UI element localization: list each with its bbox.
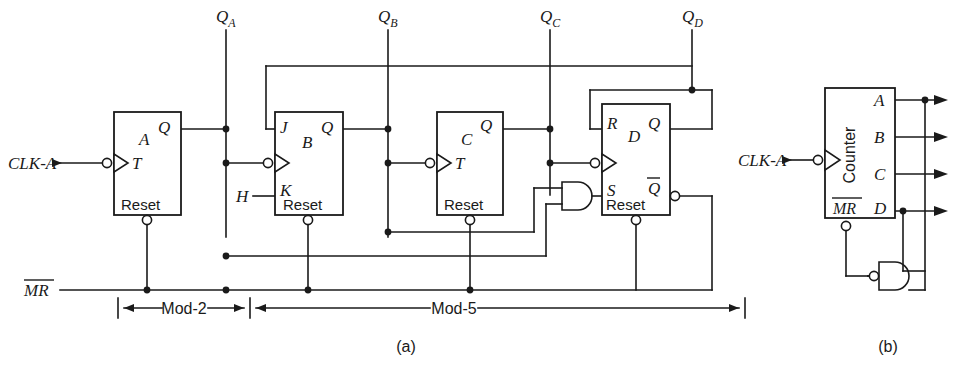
junction-mr-a — [144, 287, 151, 294]
figure-7474-counter-diagram: QA QB QC QD CLK-A CLK-A MR H A Q T Reset… — [0, 0, 964, 379]
label-h: H — [235, 187, 250, 206]
nand-b-out-bubble — [869, 271, 878, 280]
junction-qb-andbus — [385, 229, 392, 236]
ffa-q-label: Q — [158, 118, 170, 137]
ffb-q-label: Q — [321, 118, 333, 137]
ffb-reset-label: Reset — [283, 196, 323, 213]
ffc-q-label: Q — [480, 116, 492, 135]
label-mr: MR — [23, 281, 49, 300]
counter-out-a: A — [873, 91, 885, 110]
counter-out-d: D — [873, 199, 887, 218]
junction-qa-q — [223, 126, 230, 133]
ffd-q-label: Q — [648, 114, 660, 133]
dim-label-mod2: Mod-2 — [161, 300, 206, 317]
junction-qb-q — [385, 126, 392, 133]
junction-qa-mr — [223, 287, 230, 294]
label-clka-left: CLK-A — [8, 154, 57, 173]
counter-out-b: B — [874, 128, 885, 147]
ffd-name: D — [627, 127, 641, 146]
ffa-reset-bubble — [142, 215, 151, 224]
ffd-r-label: R — [606, 114, 618, 133]
ffc-reset-bubble — [465, 215, 474, 224]
ffa-t-label: T — [132, 154, 143, 173]
ffc-clk-bubble — [425, 158, 434, 167]
ffb-reset-bubble — [303, 215, 312, 224]
ffa-reset-label: Reset — [121, 196, 161, 213]
junction-qd-top — [689, 87, 696, 94]
junction-qb-clk — [385, 160, 392, 167]
ffb-clk-bubble — [263, 158, 272, 167]
caption-a: (a) — [396, 338, 416, 355]
ffc-reset-label: Reset — [444, 196, 484, 213]
ffd-clk-bubble — [590, 158, 599, 167]
junction-b-d-tap — [900, 208, 907, 215]
ffc-t-label: T — [455, 154, 466, 173]
caption-b: (b) — [878, 338, 898, 355]
ffd-reset-label: Reset — [606, 196, 646, 213]
ffd-reset-bubble — [631, 215, 640, 224]
counter-mr-bubble — [841, 221, 850, 230]
junction-mr-b — [305, 287, 312, 294]
label-clka-right: CLK-A — [738, 151, 787, 170]
counter-title: Counter — [841, 126, 858, 184]
counter-mr-label: MR — [832, 200, 856, 217]
ffd-qbar-bubble — [670, 191, 679, 200]
ffc-name: C — [461, 130, 473, 149]
junction-qc-q — [547, 126, 554, 133]
junction-qa-clk — [223, 160, 230, 167]
junction-qc-clk — [547, 160, 554, 167]
junction-b-a-tap — [922, 97, 929, 104]
junction-qa-andbus — [223, 253, 230, 260]
dim-label-mod5: Mod-5 — [431, 300, 476, 317]
ffa-name: A — [138, 130, 150, 149]
ffb-name: B — [302, 133, 313, 152]
ffd-qbar-label: Q — [648, 179, 660, 198]
ffa-clk-bubble — [102, 158, 111, 167]
junction-mr-c — [467, 287, 474, 294]
counter-clk-bubble — [813, 155, 822, 164]
counter-out-c: C — [874, 165, 886, 184]
